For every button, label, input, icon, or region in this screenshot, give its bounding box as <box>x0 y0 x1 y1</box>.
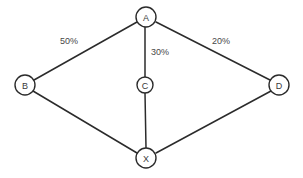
edge-a-d <box>156 22 270 80</box>
edge-label-a-c: 30% <box>150 47 170 58</box>
graph-diagram: A B C D X 50% 30% 20% <box>0 0 303 178</box>
edge-a-b <box>34 22 137 80</box>
graph-canvas-svg: A B C D X <box>0 0 303 178</box>
node-d[interactable]: D <box>269 75 289 95</box>
edge-label-a-d: 20% <box>211 36 231 47</box>
edge-label-a-b: 50% <box>59 36 79 47</box>
edge-c-x <box>145 93 146 148</box>
node-b-label: B <box>22 81 28 91</box>
node-a-label: A <box>143 13 149 23</box>
node-b[interactable]: B <box>15 75 35 95</box>
node-a[interactable]: A <box>136 7 156 27</box>
node-c-label: C <box>142 81 149 91</box>
edge-d-x <box>156 91 271 153</box>
node-d-label: D <box>276 81 283 91</box>
edge-b-x <box>33 91 137 153</box>
node-x[interactable]: X <box>136 148 156 168</box>
node-x-label: X <box>143 154 149 164</box>
node-c[interactable]: C <box>137 77 153 93</box>
